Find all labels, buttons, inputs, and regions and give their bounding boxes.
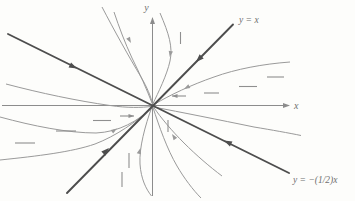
eigenline-y-equals-minus-half-x <box>8 34 289 173</box>
flow-arrowhead-icon <box>111 127 118 134</box>
field-arrowhead-icon <box>129 114 135 118</box>
eigenline-y-equals-x <box>67 25 233 194</box>
flow-arrowhead-icon <box>170 133 177 140</box>
line-label-y-equals-minus-half-x: y = −(1/2)x <box>292 175 338 186</box>
trajectory-lower-left-hug-y-axis <box>140 107 152 197</box>
axis-arrowhead-icon <box>150 17 155 24</box>
axis-arrowhead-icon <box>283 103 290 108</box>
trajectory-upper-left-swoop <box>102 7 152 104</box>
x-axis-label: x <box>293 100 299 111</box>
trajectory-lower-right-mid <box>154 107 223 176</box>
phase-portrait-svg: y x y = x y = −(1/2)x <box>0 0 355 201</box>
figure-canvas: y x y = x y = −(1/2)x <box>0 0 355 201</box>
flow-arrowhead-icon <box>137 147 143 154</box>
flow-arrowhead-icon <box>126 37 133 44</box>
trajectory-right-below-axis <box>154 107 302 136</box>
y-axis-label: y <box>143 2 149 13</box>
trajectory-left-above-axis <box>6 84 152 107</box>
line-label-y-equals-x: y = x <box>238 15 259 25</box>
eigenlines-group <box>8 25 289 194</box>
flow-arrowhead-icon <box>183 84 190 91</box>
trajectories-group <box>0 7 301 198</box>
